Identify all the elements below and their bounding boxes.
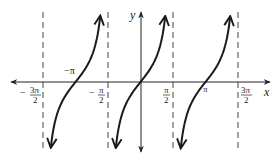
tangent-graph: x y −π π − 3π 2 − π 2 π 2 3π 2 — [0, 0, 279, 161]
x-axis-label: x — [263, 85, 270, 99]
svg-text:π: π — [99, 85, 104, 95]
tick-label-neg-3pi-over-2: − 3π 2 — [20, 85, 41, 105]
svg-text:2: 2 — [244, 95, 249, 105]
y-axis-label: y — [129, 8, 136, 22]
tick-label-neg-pi: −π — [64, 65, 75, 76]
svg-text:π: π — [164, 85, 169, 95]
tick-label-pi: π — [203, 84, 208, 94]
tick-label-neg-pi-over-2: − π 2 — [89, 85, 105, 105]
chart-canvas: x y −π π − 3π 2 − π 2 π 2 3π 2 — [0, 0, 279, 161]
svg-text:3π: 3π — [30, 85, 40, 95]
tick-label-pi-over-2: π 2 — [163, 85, 170, 105]
svg-text:−: − — [89, 87, 95, 98]
svg-text:3π: 3π — [241, 85, 251, 95]
svg-text:2: 2 — [33, 95, 38, 105]
tick-label-3pi-over-2: 3π 2 — [241, 85, 252, 105]
svg-text:−: − — [20, 87, 26, 98]
svg-text:2: 2 — [164, 95, 169, 105]
svg-text:2: 2 — [99, 95, 104, 105]
